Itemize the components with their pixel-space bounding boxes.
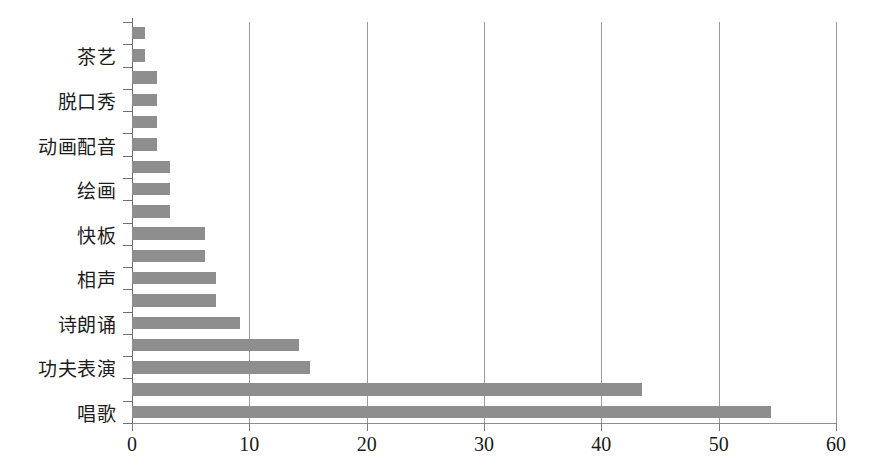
y-axis-tick bbox=[123, 67, 132, 68]
bar-row bbox=[132, 250, 836, 262]
y-axis-tick bbox=[123, 401, 132, 402]
y-axis-tick bbox=[123, 223, 132, 224]
category-label: 绘画 bbox=[77, 176, 116, 203]
category-label: 脱口秀 bbox=[58, 86, 117, 113]
bar bbox=[132, 71, 157, 83]
y-axis-tick bbox=[123, 245, 132, 246]
bar bbox=[132, 94, 157, 106]
bar-row bbox=[132, 116, 836, 128]
y-axis-tick bbox=[123, 156, 132, 157]
y-axis-tick bbox=[123, 200, 132, 201]
x-axis-tick bbox=[601, 423, 602, 431]
bar bbox=[132, 49, 145, 61]
y-axis-tick bbox=[123, 423, 132, 424]
y-axis-tick bbox=[123, 267, 132, 268]
bar-row bbox=[132, 227, 836, 239]
bar bbox=[132, 161, 170, 173]
x-axis-tick-label: 60 bbox=[826, 434, 846, 454]
bar bbox=[132, 339, 299, 351]
x-axis-tick-label: 0 bbox=[127, 434, 137, 454]
x-axis-tick-label: 50 bbox=[709, 434, 729, 454]
bar bbox=[132, 116, 157, 128]
bar-row bbox=[132, 361, 836, 373]
category-label: 茶艺 bbox=[77, 42, 116, 69]
category-label: 相声 bbox=[77, 265, 116, 292]
bar-row bbox=[132, 339, 836, 351]
bar bbox=[132, 250, 205, 262]
bar bbox=[132, 27, 145, 39]
x-axis-tick-label: 40 bbox=[591, 434, 611, 454]
bar-row bbox=[132, 406, 836, 418]
y-axis-tick bbox=[123, 133, 132, 134]
y-axis-tick bbox=[123, 111, 132, 112]
bar bbox=[132, 317, 240, 329]
bar bbox=[132, 138, 157, 150]
bar bbox=[132, 294, 216, 306]
plot-area bbox=[132, 22, 836, 423]
bar-row bbox=[132, 383, 836, 395]
bar bbox=[132, 227, 205, 239]
category-axis-labels: 茶艺脱口秀动画配音绘画快板相声诗朗诵功夫表演唱歌 bbox=[0, 0, 122, 473]
x-axis-tick bbox=[367, 423, 368, 431]
y-axis-tick bbox=[123, 378, 132, 379]
category-label: 诗朗诵 bbox=[58, 309, 117, 336]
y-axis-tick bbox=[123, 178, 132, 179]
x-axis-tick-label: 10 bbox=[239, 434, 259, 454]
y-axis-tick bbox=[123, 89, 132, 90]
bar-row bbox=[132, 71, 836, 83]
x-axis-tick bbox=[484, 423, 485, 431]
bar bbox=[132, 383, 642, 395]
category-label: 动画配音 bbox=[38, 131, 116, 158]
bar-row bbox=[132, 294, 836, 306]
chart-page: 0102030405060 茶艺脱口秀动画配音绘画快板相声诗朗诵功夫表演唱歌 bbox=[0, 0, 869, 473]
bar-row bbox=[132, 49, 836, 61]
y-axis-tick bbox=[123, 312, 132, 313]
x-axis-tick bbox=[249, 423, 250, 431]
x-axis-tick bbox=[132, 423, 133, 431]
y-axis-tick bbox=[123, 44, 132, 45]
x-axis-tick bbox=[719, 423, 720, 431]
x-axis-tick bbox=[836, 423, 837, 431]
bar-row bbox=[132, 272, 836, 284]
bar-row bbox=[132, 138, 836, 150]
bar-row bbox=[132, 317, 836, 329]
bar-row bbox=[132, 161, 836, 173]
y-axis-tick bbox=[123, 22, 132, 23]
y-axis-tick bbox=[123, 334, 132, 335]
x-axis-tick-label: 20 bbox=[357, 434, 377, 454]
gridline bbox=[836, 22, 837, 423]
bar-row bbox=[132, 27, 836, 39]
bar-row bbox=[132, 183, 836, 195]
category-label: 功夫表演 bbox=[38, 354, 116, 381]
bar bbox=[132, 183, 170, 195]
category-label: 唱歌 bbox=[77, 398, 116, 425]
bar bbox=[132, 205, 170, 217]
y-axis-tick bbox=[123, 356, 132, 357]
bar bbox=[132, 272, 216, 284]
y-axis-tick bbox=[123, 289, 132, 290]
bar-row bbox=[132, 94, 836, 106]
x-axis-tick-label: 30 bbox=[474, 434, 494, 454]
bar bbox=[132, 361, 310, 373]
bar-row bbox=[132, 205, 836, 217]
category-label: 快板 bbox=[77, 220, 116, 247]
bar bbox=[132, 406, 771, 418]
